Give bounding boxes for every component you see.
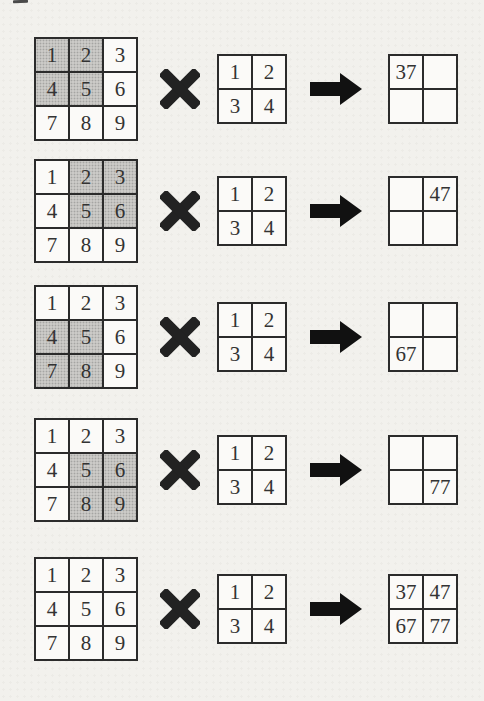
input-matrix-cell: 2 — [69, 419, 103, 453]
input-matrix-cell: 1 — [35, 286, 69, 320]
kernel-matrix-cell: 4 — [252, 470, 286, 504]
input-matrix-cell: 3 — [103, 160, 137, 194]
input-matrix-cell: 2 — [69, 286, 103, 320]
kernel-matrix-cell: 3 — [218, 470, 252, 504]
input-matrix-cell: 9 — [103, 354, 137, 388]
input-matrix-cell: 6 — [103, 453, 137, 487]
input-matrix: 123456789 — [34, 37, 138, 141]
output-matrix-cell — [389, 89, 423, 123]
input-matrix-cell: 1 — [35, 38, 69, 72]
output-matrix-cell: 77 — [423, 609, 457, 643]
convolution-step-top-left: 123456789123437 — [0, 37, 484, 141]
convolution-step-bottom-right: 123456789123477 — [0, 418, 484, 522]
input-matrix-cell: 5 — [69, 72, 103, 106]
kernel-matrix-cell: 2 — [252, 177, 286, 211]
kernel-matrix-cell: 1 — [218, 575, 252, 609]
input-matrix-cell: 5 — [69, 592, 103, 626]
output-matrix-cell — [423, 436, 457, 470]
output-matrix-cell: 37 — [389, 55, 423, 89]
arrow-right-icon — [310, 319, 362, 355]
convolution-diagram: 1234567891234371234567891234471234567891… — [0, 0, 484, 701]
kernel-matrix-cell: 1 — [218, 436, 252, 470]
output-matrix-cell — [389, 303, 423, 337]
input-matrix-cell: 3 — [103, 286, 137, 320]
scan-artifact — [13, 0, 28, 3]
multiply-icon — [160, 69, 200, 109]
input-matrix-cell: 8 — [69, 626, 103, 660]
multiply-icon — [160, 317, 200, 357]
kernel-matrix-cell: 2 — [252, 55, 286, 89]
input-matrix: 123456789 — [34, 159, 138, 263]
input-matrix-cell: 2 — [69, 558, 103, 592]
output-matrix-cell — [389, 470, 423, 504]
kernel-matrix: 1234 — [217, 176, 287, 246]
input-matrix-cell: 8 — [69, 354, 103, 388]
kernel-matrix-cell: 4 — [252, 337, 286, 371]
kernel-matrix-cell: 3 — [218, 337, 252, 371]
input-matrix-cell: 1 — [35, 160, 69, 194]
kernel-matrix-cell: 1 — [218, 177, 252, 211]
kernel-matrix-cell: 2 — [252, 303, 286, 337]
output-matrix-cell: 67 — [389, 609, 423, 643]
arrow-right-icon — [310, 71, 362, 107]
input-matrix-cell: 5 — [69, 453, 103, 487]
output-matrix-cell — [423, 211, 457, 245]
input-matrix-cell: 1 — [35, 419, 69, 453]
input-matrix-cell: 6 — [103, 320, 137, 354]
input-matrix-cell: 7 — [35, 626, 69, 660]
kernel-matrix-cell: 4 — [252, 211, 286, 245]
multiply-icon — [160, 191, 200, 231]
input-matrix: 123456789 — [34, 285, 138, 389]
arrow-right-icon — [310, 591, 362, 627]
input-matrix-cell: 9 — [103, 487, 137, 521]
output-matrix-cell — [423, 55, 457, 89]
input-matrix: 123456789 — [34, 418, 138, 522]
kernel-matrix: 1234 — [217, 54, 287, 124]
kernel-matrix: 1234 — [217, 435, 287, 505]
kernel-matrix-cell: 2 — [252, 436, 286, 470]
kernel-matrix-cell: 4 — [252, 609, 286, 643]
input-matrix-cell: 4 — [35, 72, 69, 106]
kernel-matrix-cell: 1 — [218, 303, 252, 337]
input-matrix-cell: 7 — [35, 106, 69, 140]
output-matrix: 67 — [388, 302, 458, 372]
output-matrix-cell: 67 — [389, 337, 423, 371]
input-matrix-cell: 8 — [69, 228, 103, 262]
convolution-step-bottom-left: 123456789123467 — [0, 285, 484, 389]
input-matrix-cell: 3 — [103, 558, 137, 592]
input-matrix-cell: 2 — [69, 160, 103, 194]
kernel-matrix-cell: 3 — [218, 609, 252, 643]
input-matrix-cell: 9 — [103, 228, 137, 262]
output-matrix-cell — [389, 211, 423, 245]
output-matrix-cell — [389, 177, 423, 211]
output-matrix-cell — [423, 337, 457, 371]
input-matrix-cell: 3 — [103, 419, 137, 453]
output-matrix-cell: 37 — [389, 575, 423, 609]
input-matrix-cell: 5 — [69, 320, 103, 354]
input-matrix-cell: 1 — [35, 558, 69, 592]
input-matrix-cell: 2 — [69, 38, 103, 72]
input-matrix-cell: 7 — [35, 354, 69, 388]
output-matrix-cell — [423, 89, 457, 123]
output-matrix-cell: 77 — [423, 470, 457, 504]
input-matrix-cell: 7 — [35, 228, 69, 262]
input-matrix-cell: 7 — [35, 487, 69, 521]
output-matrix: 77 — [388, 435, 458, 505]
kernel-matrix-cell: 2 — [252, 575, 286, 609]
input-matrix-cell: 4 — [35, 592, 69, 626]
arrow-right-icon — [310, 452, 362, 488]
kernel-matrix-cell: 3 — [218, 211, 252, 245]
kernel-matrix-cell: 4 — [252, 89, 286, 123]
output-matrix-cell: 47 — [423, 575, 457, 609]
output-matrix-cell — [423, 303, 457, 337]
input-matrix-cell: 9 — [103, 626, 137, 660]
input-matrix-cell: 4 — [35, 320, 69, 354]
input-matrix-cell: 6 — [103, 72, 137, 106]
input-matrix: 123456789 — [34, 557, 138, 661]
convolution-step-top-right: 123456789123447 — [0, 159, 484, 263]
diagram-rows: 1234567891234371234567891234471234567891… — [0, 37, 484, 661]
output-matrix: 37476777 — [388, 574, 458, 644]
input-matrix-cell: 4 — [35, 453, 69, 487]
multiply-icon — [160, 450, 200, 490]
kernel-matrix-cell: 3 — [218, 89, 252, 123]
